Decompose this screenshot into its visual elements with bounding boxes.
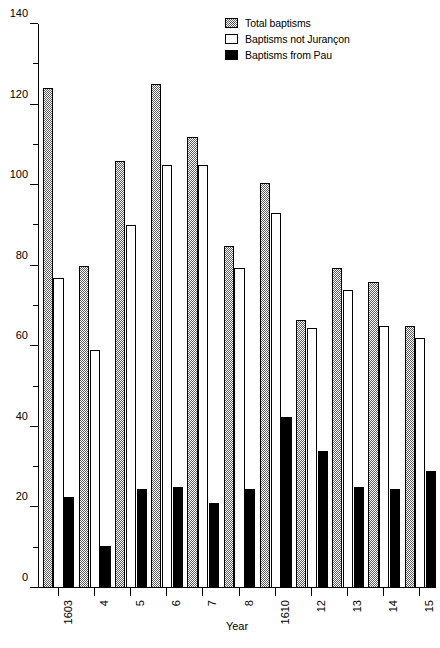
y-axis-tick-label: 80 xyxy=(16,249,28,260)
x-axis-tick xyxy=(347,588,348,596)
bar xyxy=(64,497,74,588)
bar-group xyxy=(405,24,437,588)
x-axis-tick xyxy=(383,588,384,596)
y-axis-tick-label: 0 xyxy=(22,572,28,583)
x-axis-tick xyxy=(311,588,312,596)
bar xyxy=(43,88,53,588)
y-axis-major-tick xyxy=(30,345,38,346)
bar-group xyxy=(115,24,147,588)
y-axis-major-tick xyxy=(30,426,38,427)
bar xyxy=(79,266,89,588)
bar-groups xyxy=(39,24,436,588)
y-axis-major-tick xyxy=(30,506,38,507)
bar xyxy=(137,489,147,588)
bar xyxy=(209,503,219,588)
bar-group xyxy=(43,24,75,588)
x-axis-tick xyxy=(166,588,167,596)
bar xyxy=(100,546,110,588)
y-axis-minor-tick xyxy=(33,547,38,548)
bar xyxy=(296,320,306,588)
y-axis-minor-tick xyxy=(33,144,38,145)
y-axis-major-tick xyxy=(30,23,38,24)
bar-group xyxy=(332,24,364,588)
bar xyxy=(245,489,255,588)
y-axis-minor-tick xyxy=(33,63,38,64)
bar-group xyxy=(368,24,400,588)
x-axis-tick-label: 14 xyxy=(388,600,399,612)
bar xyxy=(318,451,328,588)
y-axis-tick-label: 140 xyxy=(10,8,28,19)
bar xyxy=(379,326,389,588)
x-axis-tick-label: 15 xyxy=(424,600,435,612)
bar xyxy=(281,417,291,588)
bar xyxy=(53,278,63,588)
y-axis-tick-label: 60 xyxy=(16,330,28,341)
x-axis-tick-label: 7 xyxy=(207,600,218,606)
bar xyxy=(271,213,281,588)
bar xyxy=(224,246,234,588)
bar-group xyxy=(187,24,219,588)
bar xyxy=(354,487,364,588)
x-axis-tick xyxy=(94,588,95,596)
x-axis-tick xyxy=(58,588,59,596)
x-axis-tick xyxy=(202,588,203,596)
bar xyxy=(307,328,317,588)
bar xyxy=(234,268,244,588)
bar xyxy=(151,84,161,588)
bar-group xyxy=(79,24,111,588)
x-axis-tick xyxy=(419,588,420,596)
bar xyxy=(390,489,400,588)
bar xyxy=(426,471,436,588)
y-axis-minor-tick xyxy=(33,466,38,467)
bar xyxy=(368,282,378,588)
bar xyxy=(198,165,208,588)
y-axis-major-tick xyxy=(30,104,38,105)
y-axis-major-tick xyxy=(30,184,38,185)
y-axis-minor-tick xyxy=(33,386,38,387)
bar xyxy=(126,225,136,588)
y-axis-minor-tick xyxy=(33,305,38,306)
bar xyxy=(405,326,415,588)
bar xyxy=(173,487,183,588)
x-axis-tick xyxy=(130,588,131,596)
bar-group xyxy=(260,24,292,588)
plot-area: 020406080100120140 160345678161012131415 xyxy=(38,24,436,588)
bar xyxy=(187,137,197,588)
bar xyxy=(343,290,353,588)
x-axis-tick xyxy=(275,588,276,596)
y-axis-tick-label: 40 xyxy=(16,410,28,421)
x-axis-tick-label: 12 xyxy=(316,600,327,612)
x-axis-tick-label: 6 xyxy=(171,600,182,606)
x-axis-tick-label: 5 xyxy=(135,600,146,606)
x-axis-tick xyxy=(239,588,240,596)
bar xyxy=(260,183,270,588)
bar-group xyxy=(151,24,183,588)
y-axis-tick-label: 120 xyxy=(10,88,28,99)
bar xyxy=(115,161,125,588)
bar xyxy=(162,165,172,588)
bar xyxy=(332,268,342,588)
x-axis-tick-label: 8 xyxy=(244,600,255,606)
y-axis-major-tick xyxy=(30,587,38,588)
x-axis-tick-label: 13 xyxy=(352,600,363,612)
bar-chart-figure: Total baptisms Baptisms not Jurançon Bap… xyxy=(0,0,440,648)
bar xyxy=(90,350,100,588)
x-axis-title: Year xyxy=(38,620,436,632)
y-axis-tick-label: 100 xyxy=(10,169,28,180)
y-axis-minor-tick xyxy=(33,224,38,225)
bar-group xyxy=(224,24,256,588)
bar-group xyxy=(296,24,328,588)
x-axis-tick-label: 4 xyxy=(99,600,110,606)
y-axis-tick-label: 20 xyxy=(16,491,28,502)
bar xyxy=(415,338,425,588)
y-axis-major-tick xyxy=(30,265,38,266)
